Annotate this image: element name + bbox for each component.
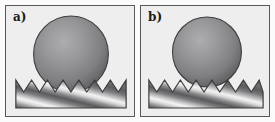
panel-b: b) xyxy=(140,5,270,117)
panel-b-label: b) xyxy=(148,11,162,23)
droplet-sphere-b xyxy=(173,17,242,87)
droplet-sphere-a xyxy=(34,16,109,92)
panel-a: a) xyxy=(5,5,135,117)
panel-container: a) xyxy=(5,5,270,117)
figure-root: a) xyxy=(0,0,275,122)
panel-a-label: a) xyxy=(13,11,26,23)
